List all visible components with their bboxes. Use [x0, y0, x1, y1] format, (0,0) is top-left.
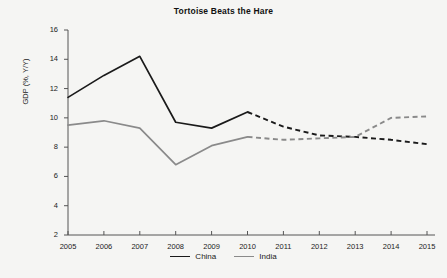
series-line-india-actual: [68, 121, 248, 165]
y-tick-label: 4: [36, 201, 58, 210]
x-tick-label: 2006: [87, 242, 121, 251]
legend-item-china[interactable]: China: [170, 252, 216, 261]
y-tick-label: 10: [36, 113, 58, 122]
y-tick-label: 16: [36, 25, 58, 34]
x-tick-label: 2015: [410, 242, 444, 251]
y-tick-label: 2: [36, 230, 58, 239]
x-tick-label: 2014: [374, 242, 408, 251]
x-tick-label: 2012: [302, 242, 336, 251]
x-tick-label: 2008: [159, 242, 193, 251]
x-tick-label: 2010: [231, 242, 265, 251]
gdp-line-chart: Tortoise Beats the Hare GDP (%, Y/Y) 246…: [0, 0, 447, 278]
y-tick-label: 6: [36, 171, 58, 180]
x-tick-label: 2011: [266, 242, 300, 251]
y-tick-label: 8: [36, 142, 58, 151]
y-tick-label: 12: [36, 84, 58, 93]
legend-label: India: [259, 252, 276, 261]
x-tick-label: 2013: [338, 242, 372, 251]
x-tick-label: 2009: [195, 242, 229, 251]
y-axis-title: GDP (%, Y/Y): [21, 91, 30, 105]
legend-item-india[interactable]: India: [234, 252, 276, 261]
chart-legend: ChinaIndia: [0, 252, 447, 261]
y-tick-label: 14: [36, 54, 58, 63]
legend-swatch-india: [234, 256, 254, 257]
series-line-china-actual: [68, 56, 248, 128]
x-tick-label: 2005: [51, 242, 85, 251]
plot-area: [0, 0, 447, 278]
legend-swatch-china: [170, 256, 190, 257]
legend-label: China: [195, 252, 216, 261]
chart-title: Tortoise Beats the Hare: [0, 6, 447, 16]
x-tick-label: 2007: [123, 242, 157, 251]
